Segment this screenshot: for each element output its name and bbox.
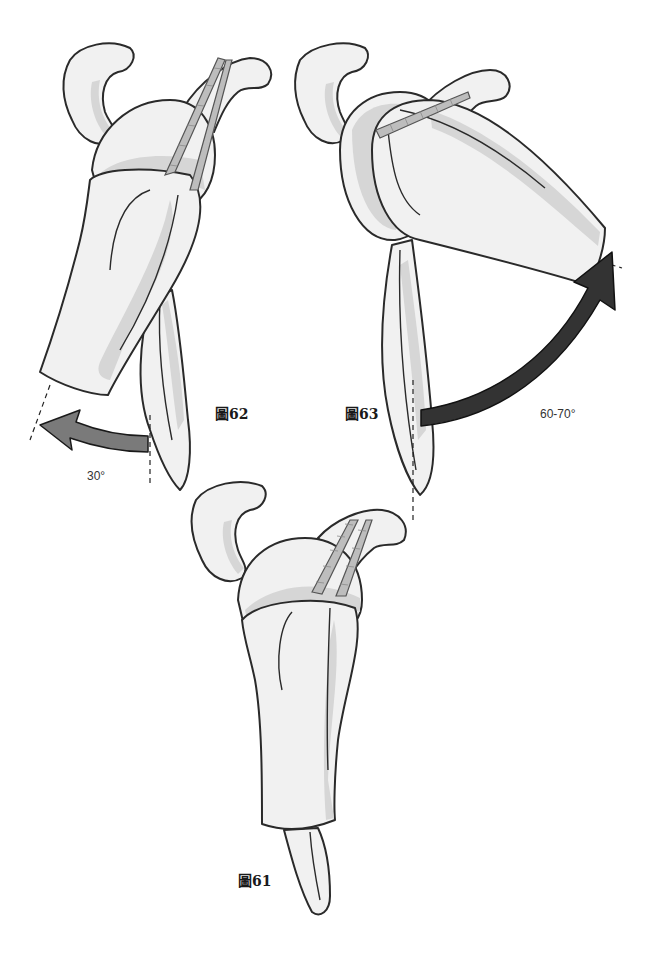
figure-62-label: 圖62 bbox=[215, 403, 248, 423]
scapula-tip bbox=[284, 828, 330, 914]
angle-30-label: 30° bbox=[87, 469, 105, 483]
figure-61 bbox=[192, 482, 406, 914]
humerus-shaft bbox=[242, 601, 358, 829]
reference-line-angled bbox=[30, 385, 50, 440]
arrow-30-degrees bbox=[40, 410, 148, 452]
arrow-60-70-degrees bbox=[421, 252, 615, 426]
figure-63 bbox=[295, 43, 622, 520]
angle-60-70-label: 60-70° bbox=[540, 407, 576, 421]
figure-63-label: 圖63 bbox=[345, 403, 378, 423]
figure-61-label: 圖61 bbox=[238, 870, 271, 890]
